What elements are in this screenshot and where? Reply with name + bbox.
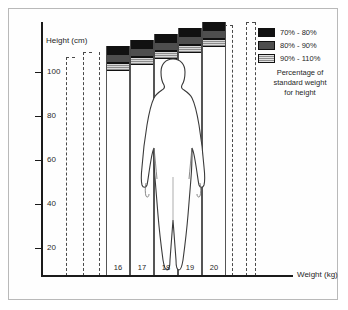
legend-label-80-90: 80% - 90% xyxy=(280,41,317,50)
x-tick-label-20: 20 xyxy=(202,263,226,272)
band-80-90-18 xyxy=(155,42,177,51)
stacked-bar-16 xyxy=(106,46,130,71)
band-70-80-16 xyxy=(107,46,129,54)
dashed-bracket-top-right-2 xyxy=(246,22,255,23)
legend-swatch-80-90 xyxy=(258,41,275,50)
band-90-110-20 xyxy=(203,39,225,47)
dashed-bracket-top-left-2 xyxy=(83,52,92,53)
legend-caption-line-1: Percentage of xyxy=(258,68,342,78)
y-tick-label-40: 40 xyxy=(47,199,56,208)
y-tick-label-20: 20 xyxy=(47,243,56,252)
legend-caption-line-3: for height xyxy=(258,88,342,98)
legend-item-70-80: 70% - 80% xyxy=(258,28,342,37)
band-70-80-19 xyxy=(179,28,201,36)
legend-label-90-110: 90% - 110% xyxy=(280,54,320,63)
x-axis-title: Weight (kg) xyxy=(297,270,338,279)
y-tick-mark-40 xyxy=(35,204,42,205)
x-tick-label-18: 18 xyxy=(154,263,178,272)
legend-caption: Percentage of standard weight for height xyxy=(258,68,342,98)
band-80-90-17 xyxy=(131,48,153,57)
dashed-reference-line-right-1 xyxy=(232,25,233,276)
y-tick-mark-100 xyxy=(35,72,42,73)
human-figure-silhouette xyxy=(134,57,212,273)
y-axis-line xyxy=(41,22,43,276)
column-body-16 xyxy=(106,70,130,276)
band-70-80-20 xyxy=(203,22,225,30)
y-tick-label-60: 60 xyxy=(47,155,56,164)
dashed-reference-line-left-3 xyxy=(99,52,100,276)
legend-item-80-90: 80% - 90% xyxy=(258,41,342,50)
legend-swatch-70-80 xyxy=(258,28,275,37)
band-70-80-17 xyxy=(131,40,153,48)
legend-item-90-110: 90% - 110% xyxy=(258,54,342,63)
band-70-80-18 xyxy=(155,34,177,42)
dashed-bracket-top-left-1 xyxy=(66,57,75,58)
dashed-reference-line-left-1 xyxy=(66,57,67,276)
x-axis-line xyxy=(41,275,293,277)
y-axis-title: Height (cm) xyxy=(46,36,87,45)
figure-root: 100 80 60 40 20 Height (cm) Weight (kg) … xyxy=(0,0,348,310)
band-90-110-16 xyxy=(107,63,129,71)
stacked-bar-18 xyxy=(154,34,178,59)
x-tick-label-16: 16 xyxy=(106,263,130,272)
legend-swatch-90-110 xyxy=(258,54,275,63)
x-tick-label-19: 19 xyxy=(178,263,202,272)
y-tick-label-80: 80 xyxy=(47,111,56,120)
legend-label-70-80: 70% - 80% xyxy=(280,28,317,37)
band-80-90-19 xyxy=(179,36,201,45)
band-80-90-20 xyxy=(203,30,225,39)
stacked-bar-19 xyxy=(178,28,202,53)
legend-caption-line-2: standard weight xyxy=(258,78,342,88)
legend: 70% - 80% 80% - 90% 90% - 110% Percentag… xyxy=(258,28,342,98)
band-90-110-19 xyxy=(179,45,201,53)
y-tick-mark-80 xyxy=(35,116,42,117)
band-80-90-16 xyxy=(107,54,129,63)
stacked-bar-20 xyxy=(202,22,226,47)
y-tick-mark-60 xyxy=(35,160,42,161)
y-tick-label-100: 100 xyxy=(47,67,60,76)
x-tick-label-17: 17 xyxy=(130,263,154,272)
dashed-reference-line-right-3 xyxy=(255,22,256,276)
y-tick-mark-20 xyxy=(35,248,42,249)
dashed-reference-line-right-2 xyxy=(246,22,247,276)
dashed-reference-line-left-2 xyxy=(83,52,84,276)
